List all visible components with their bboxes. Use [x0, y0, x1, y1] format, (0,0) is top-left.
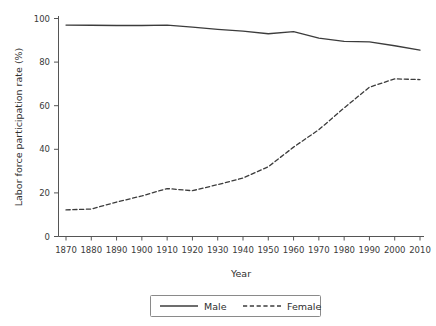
series-line-male [66, 25, 420, 50]
x-axis-title: Year [230, 268, 251, 279]
y-tick-label: 60 [39, 101, 50, 111]
chart-figure: 0 20 40 60 80 100 Labor force participat… [0, 0, 436, 326]
y-axis-ticks [54, 19, 59, 237]
series-line-female [66, 79, 420, 210]
x-axis-ticks [66, 237, 420, 241]
x-tick-label: 1920 [182, 245, 204, 255]
y-tick-label: 20 [39, 188, 50, 198]
legend-label-male: Male [204, 301, 227, 312]
x-tick-label: 1890 [106, 245, 128, 255]
x-tick-label: 1960 [283, 245, 305, 255]
x-tick-label: 1900 [131, 245, 153, 255]
x-tick-label: 1980 [333, 245, 355, 255]
x-tick-label: 2010 [409, 245, 431, 255]
y-axis-tick-labels: 0 20 40 60 80 100 [34, 14, 50, 242]
x-tick-label: 1910 [156, 245, 178, 255]
legend-label-female: Female [287, 301, 322, 312]
x-tick-label: 1990 [359, 245, 381, 255]
x-tick-label: 1940 [232, 245, 254, 255]
x-tick-label: 1950 [257, 245, 279, 255]
y-tick-label: 80 [39, 57, 50, 67]
x-tick-label: 1870 [55, 245, 77, 255]
line-chart-canvas: 0 20 40 60 80 100 Labor force participat… [0, 0, 436, 326]
x-tick-label: 2000 [384, 245, 406, 255]
y-tick-label: 100 [34, 14, 50, 24]
x-tick-label: 1930 [207, 245, 229, 255]
y-axis-title: Labor force participation rate (%) [13, 48, 24, 207]
x-tick-label: 1970 [308, 245, 330, 255]
x-axis-tick-labels: 1870188018901900191019201930194019501960… [55, 245, 431, 255]
chart-legend: Male Female [151, 296, 322, 317]
x-tick-label: 1880 [80, 245, 102, 255]
y-tick-label: 40 [39, 144, 50, 154]
y-tick-label: 0 [45, 232, 50, 242]
